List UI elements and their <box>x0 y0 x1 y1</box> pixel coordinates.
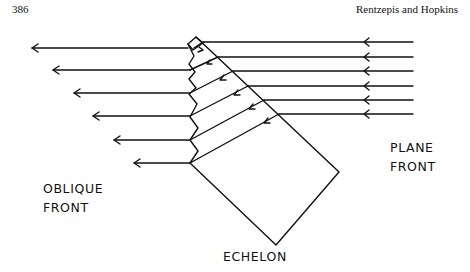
oblique-front-line1: OBLIQUE <box>43 181 103 197</box>
outgoing-rays <box>32 44 190 167</box>
echelon-label: ECHELON <box>223 249 287 265</box>
echelon-body <box>190 37 339 245</box>
plane-front-label: PLANE FRONT <box>390 140 436 175</box>
echelon-diagram <box>0 0 470 272</box>
incoming-rays <box>203 38 413 118</box>
oblique-front-line2: FRONT <box>43 200 103 216</box>
oblique-front-label: OBLIQUE FRONT <box>43 181 103 216</box>
plane-front-line2: FRONT <box>390 159 436 175</box>
plane-front-line1: PLANE <box>390 140 436 156</box>
echelon-steps <box>188 44 198 163</box>
